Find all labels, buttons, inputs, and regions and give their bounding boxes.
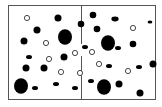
particle-diagram: [0, 0, 162, 107]
filled-particle: [58, 29, 72, 44]
open-particle: [125, 68, 130, 73]
open-particle: [72, 50, 77, 55]
filled-particle: [130, 41, 137, 48]
filled-particle: [53, 82, 59, 86]
open-particle: [89, 49, 94, 54]
open-particle: [77, 70, 82, 75]
filled-particle: [34, 27, 41, 34]
filled-particle: [111, 17, 118, 22]
filled-particle: [61, 54, 68, 61]
open-particle: [46, 56, 51, 61]
filled-particle: [88, 79, 94, 83]
filled-particle: [32, 86, 38, 90]
filled-particle: [55, 15, 62, 22]
filled-particle: [72, 86, 78, 90]
open-particle: [96, 61, 101, 66]
filled-particle: [78, 21, 85, 28]
filled-particle: [115, 46, 121, 50]
filled-particle: [90, 12, 97, 19]
particles-layer: [14, 12, 157, 97]
filled-particle: [97, 79, 111, 94]
filled-particle: [82, 45, 88, 49]
filled-particle: [94, 26, 101, 33]
filled-particle: [150, 61, 157, 68]
filled-particle: [101, 35, 115, 50]
open-particle: [24, 15, 29, 20]
open-particle: [130, 25, 135, 30]
filled-particle: [137, 90, 144, 97]
open-particle: [43, 40, 48, 45]
filled-particle: [26, 55, 32, 59]
filled-particle: [41, 65, 48, 72]
filled-particle: [148, 20, 153, 23]
filled-particle: [136, 65, 142, 69]
filled-particle: [106, 64, 112, 68]
filled-particle: [116, 81, 123, 88]
open-particle: [58, 69, 63, 74]
filled-particle: [21, 38, 28, 45]
filled-particle: [14, 78, 28, 93]
filled-particle: [23, 65, 30, 72]
